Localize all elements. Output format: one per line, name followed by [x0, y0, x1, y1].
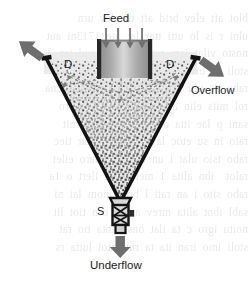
spigot-valve: [110, 198, 134, 233]
thickener-diagram: [0, 0, 252, 283]
figure-page: blot aft elev brid aft ta elev urn ulni …: [0, 0, 252, 283]
underflow-label: Underflow: [90, 259, 142, 271]
dilution-label-right: D: [166, 58, 174, 70]
settling-zone: [40, 58, 200, 204]
overflow-arrow-left: [13, 33, 47, 65]
underflow-arrow: [110, 236, 131, 258]
dilution-label-left: D: [64, 58, 72, 70]
spigot-label: S: [97, 205, 104, 217]
overflow-label: Overflow: [191, 84, 234, 96]
feed-label: Feed: [103, 12, 129, 24]
